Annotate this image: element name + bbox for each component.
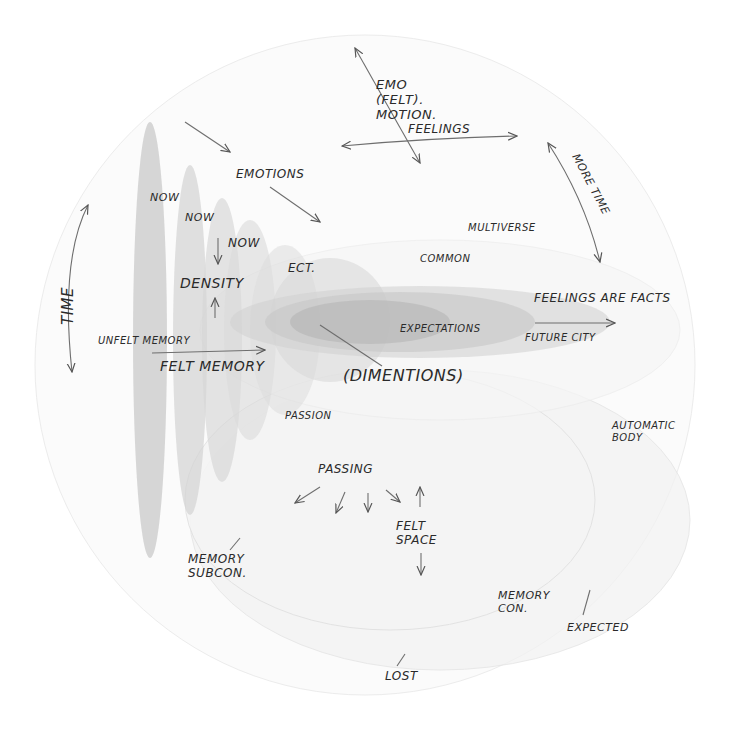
label-memory-con: MEMORY CON.	[498, 590, 550, 615]
label-lost: LOST	[385, 670, 418, 684]
label-expected: EXPECTED	[567, 622, 629, 635]
label-passion: PASSION	[285, 410, 332, 422]
label-feelings: FEELINGS	[408, 123, 470, 137]
label-felt-space: FELT SPACE	[396, 520, 437, 548]
label-passing: PASSING	[318, 463, 373, 477]
label-expectations: EXPECTATIONS	[400, 323, 481, 335]
label-now-1: NOW	[150, 192, 179, 205]
label-dimentions: (DIMENTIONS)	[343, 367, 464, 385]
label-unfelt-memory: UNFELT MEMORY	[98, 335, 190, 347]
label-multiverse: MULTIVERSE	[468, 222, 536, 234]
label-emo-felt-motion: EMO (FELT). MOTION.	[376, 78, 437, 123]
expectation-ellipse-4	[290, 300, 450, 344]
label-emotions: EMOTIONS	[236, 168, 304, 182]
label-time: TIME	[60, 287, 77, 325]
label-now-2: NOW	[185, 212, 214, 225]
label-future-city: FUTURE CITY	[525, 332, 596, 344]
label-memory-subcon: MEMORY SUBCON.	[188, 553, 247, 581]
label-density: DENSITY	[180, 275, 244, 291]
label-now-3: NOW	[228, 237, 260, 251]
label-feelings-are-facts: FEELINGS ARE FACTS	[534, 292, 671, 306]
label-ect: ECT.	[288, 262, 316, 276]
label-felt-memory: FELT MEMORY	[160, 358, 265, 374]
label-common: COMMON	[420, 253, 470, 265]
label-automatic-body: AUTOMATIC BODY	[612, 420, 675, 443]
